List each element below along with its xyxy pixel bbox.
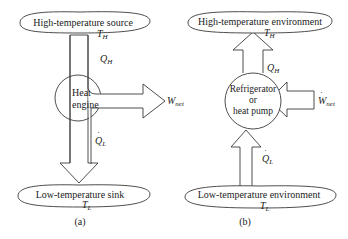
dot-wnet-b: · [320,87,323,97]
high-temperature-environment-label: High-temperature environment [198,16,322,27]
heat-engine-label-line1: Heat [72,87,91,98]
work-output-arrow [88,84,165,164]
heat-input-qh-label: QH [100,53,113,66]
low-temperature-environment-label: Low-temperature environment [198,189,321,200]
caption-a: (a) [74,216,85,228]
dot-ql-b: · [264,145,267,155]
heat-engine-label-line2: engine [72,99,99,110]
caption-b: (b) [239,216,251,228]
high-temperature-source-label: High-temperature source [33,17,133,28]
work-output-wnet-label: Wnet [167,95,185,108]
heat-rejected-qh-label: QH [267,62,280,75]
device-label-line3: heat pump [233,106,273,116]
heat-engine-refrigerator-diagram: High-temperature source TH Low-temperatu… [0,0,348,239]
heat-absorbed-arrow [231,130,261,186]
diagram-a: High-temperature source TH Low-temperatu… [18,12,185,228]
device-label-line1: Refrigerator [230,84,277,94]
dot-ql-a: · [97,127,100,137]
low-temperature-sink-label: Low-temperature sink [36,189,125,200]
diagram-b: High-temperature environment TH Low-temp… [185,12,336,228]
device-label-line2: or [249,95,258,105]
